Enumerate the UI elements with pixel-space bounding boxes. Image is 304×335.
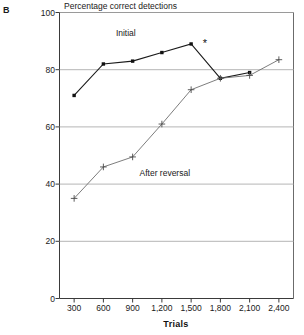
- data-point-marker: [189, 42, 192, 45]
- x-tick-label-1800: 1,800: [210, 303, 231, 313]
- y-axis-tick-labels: 020406080100: [22, 0, 55, 335]
- x-tick-label-900: 900: [126, 303, 140, 313]
- x-tick-label-1200: 1,200: [151, 303, 172, 313]
- y-tick-label-100: 100: [22, 8, 55, 18]
- x-tick-label-1500: 1,500: [180, 303, 201, 313]
- y-tick-label-80: 80: [22, 65, 55, 75]
- x-tick-label-300: 300: [67, 303, 81, 313]
- y-tick-label-60: 60: [22, 122, 55, 132]
- data-point-marker: [72, 94, 75, 97]
- y-tick-label-20: 20: [22, 236, 55, 246]
- data-point-marker: [160, 51, 163, 54]
- panel-label: B: [3, 5, 10, 15]
- x-axis-title: Trials: [59, 319, 293, 329]
- data-point-marker: [102, 62, 105, 65]
- x-tick-label-2100: 2,100: [239, 303, 260, 313]
- series-label-after-reversal: After reversal: [140, 168, 191, 178]
- chart-title: Percentage correct detections: [64, 1, 177, 11]
- chart-figure: B Percentage correct detections 02040608…: [0, 0, 304, 335]
- y-tick-label-0: 0: [22, 294, 55, 304]
- series-label-initial: Initial: [116, 28, 136, 38]
- data-point-marker: [131, 59, 134, 62]
- series-after-reversal: [71, 56, 282, 201]
- y-tick-label-40: 40: [22, 179, 55, 189]
- x-tick-label-600: 600: [96, 303, 110, 313]
- significance-asterisk: *: [203, 38, 207, 49]
- x-tick-label-2400: 2,400: [268, 303, 289, 313]
- data-point-marker: [276, 56, 283, 63]
